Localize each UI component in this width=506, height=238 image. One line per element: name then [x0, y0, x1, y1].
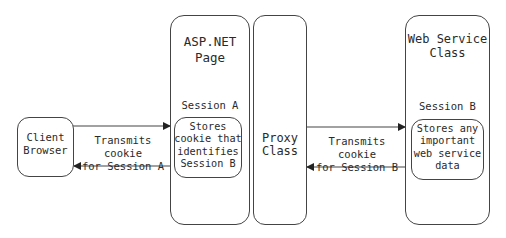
aspnet-inner-text: Stores cookie that identifies Session B	[174, 121, 242, 171]
webservice-class-title: Web Service Class	[405, 33, 490, 61]
aspnet-session-label: Session A	[170, 99, 250, 112]
webservice-inner-text: Stores any important web service data	[411, 123, 484, 173]
proxy-class-box	[253, 15, 307, 225]
arrow-label-session-a: Transmits cookie for Session A	[76, 134, 170, 173]
arrow-label-session-b: Transmits cookie for Session B	[309, 135, 405, 174]
webservice-session-label: Session B	[405, 100, 490, 113]
proxy-class-label: Proxy Class	[253, 132, 307, 158]
aspnet-page-title: ASP.NET Page	[170, 34, 250, 65]
client-browser-label: Client Browser	[17, 131, 74, 157]
